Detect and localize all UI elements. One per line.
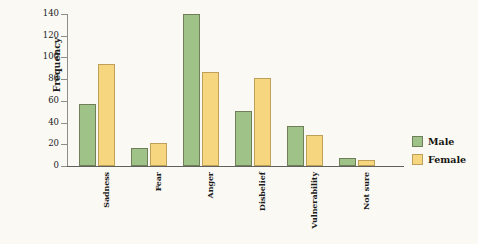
x-axis-line (67, 166, 404, 167)
bar-group (339, 14, 375, 166)
y-axis-tick-mark (61, 36, 67, 37)
bar-group (131, 14, 167, 166)
y-axis-tick-mark (61, 144, 67, 145)
y-axis-tick-label: 0 (54, 160, 59, 170)
x-axis-label-sadness: Sadness (101, 172, 113, 244)
y-axis-tick-label: 60 (48, 95, 59, 105)
bar-male-not-sure (339, 158, 356, 166)
legend-swatch-female-icon (412, 154, 423, 165)
bar-chart: Frequency 020406080100120140 SadnessFear… (0, 0, 478, 244)
chart-legend: MaleFemale (412, 133, 474, 169)
x-axis-label-not-sure: Not sure (361, 172, 373, 244)
bar-group (287, 14, 323, 166)
x-axis-label-fear: Fear (153, 172, 165, 244)
bar-male-sadness (79, 104, 96, 166)
bar-group (183, 14, 219, 166)
bar-female-disbelief (254, 78, 271, 166)
y-axis-tick-label: 40 (48, 117, 59, 127)
y-axis-tick-label: 120 (43, 30, 59, 40)
legend-item-male[interactable]: Male (412, 133, 474, 149)
bar-female-fear (150, 143, 167, 166)
bar-female-vulnerability (306, 135, 323, 166)
bar-male-fear (131, 148, 148, 166)
legend-swatch-male-icon (412, 136, 423, 147)
y-axis-tick-mark (61, 14, 67, 15)
bar-female-anger (202, 72, 219, 166)
bar-group (235, 14, 271, 166)
bar-male-anger (183, 14, 200, 166)
y-axis-tick-mark (61, 123, 67, 124)
y-axis-tick-label: 100 (43, 51, 59, 61)
bar-female-not-sure (358, 160, 375, 167)
y-axis-tick-label: 140 (43, 8, 59, 18)
y-axis-tick-mark (61, 166, 67, 167)
plot-area: 020406080100120140 (67, 14, 403, 166)
bar-male-vulnerability (287, 126, 304, 166)
bar-female-sadness (98, 64, 115, 166)
y-axis-tick-mark (61, 57, 67, 58)
y-axis-tick-label: 20 (48, 138, 59, 148)
bar-group (79, 14, 115, 166)
y-axis-tick-mark (61, 79, 67, 80)
legend-label: Female (428, 154, 466, 165)
x-axis-label-disbelief: Disbelief (257, 172, 269, 244)
y-axis-tick-label: 80 (48, 73, 59, 83)
y-axis-line (67, 14, 68, 166)
y-axis-tick-mark (61, 101, 67, 102)
legend-label: Male (428, 136, 454, 147)
x-axis-label-anger: Anger (205, 172, 217, 244)
bar-male-disbelief (235, 111, 252, 166)
legend-item-female[interactable]: Female (412, 151, 474, 167)
x-axis-label-vulnerability: Vulnerability (309, 172, 321, 244)
